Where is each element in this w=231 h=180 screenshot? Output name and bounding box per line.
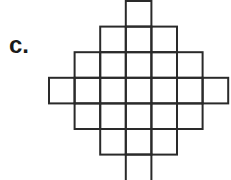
grid-cell bbox=[126, 103, 152, 129]
grid-cell bbox=[177, 52, 203, 78]
grid-cell bbox=[75, 52, 101, 78]
grid-cell bbox=[151, 78, 177, 104]
grid-cell bbox=[126, 155, 152, 180]
grid-cell bbox=[126, 78, 152, 104]
grid-cell bbox=[100, 52, 126, 78]
grid-cell bbox=[100, 27, 126, 53]
grid-cell bbox=[126, 27, 152, 53]
grid-cell bbox=[75, 78, 101, 104]
grid-cell bbox=[151, 52, 177, 78]
grid-cell bbox=[100, 129, 126, 155]
square-grid-diagram bbox=[0, 0, 231, 180]
grid-cell bbox=[75, 103, 101, 129]
grid-cell bbox=[126, 1, 152, 27]
grid-cell bbox=[126, 129, 152, 155]
grid-cell bbox=[151, 27, 177, 53]
grid-cell bbox=[49, 78, 75, 104]
grid-cell bbox=[100, 103, 126, 129]
grid-cell bbox=[151, 129, 177, 155]
grid-cell bbox=[151, 103, 177, 129]
grid-cell bbox=[177, 103, 203, 129]
grid-cell bbox=[126, 52, 152, 78]
grid-cell bbox=[177, 78, 203, 104]
grid-cell bbox=[100, 78, 126, 104]
grid-cell bbox=[203, 78, 229, 104]
